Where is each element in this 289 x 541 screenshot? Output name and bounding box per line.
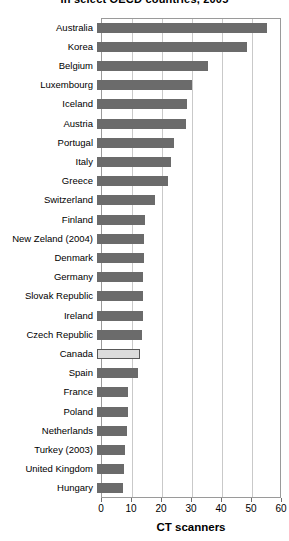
bar-cell — [97, 306, 289, 325]
category-label: Greece — [0, 176, 97, 186]
bar-row: Czech Republic — [0, 325, 289, 344]
bar — [97, 42, 247, 52]
bar-row: New Zeland (2004) — [0, 229, 289, 248]
tickmark-30 — [191, 498, 192, 502]
x-tick-label: 10 — [125, 503, 136, 515]
bar — [97, 157, 171, 167]
bar-row: Denmark — [0, 248, 289, 267]
x-tick-label: 0 — [98, 503, 104, 515]
category-label: Italy — [0, 157, 97, 167]
bar-row: Netherlands — [0, 421, 289, 440]
x-tick-label: 50 — [245, 503, 256, 515]
category-label: United Kingdom — [0, 464, 97, 474]
category-label: Netherlands — [0, 426, 97, 436]
bar-cell — [97, 76, 289, 95]
bar-row: United Kingdom — [0, 460, 289, 479]
bar-row: Ireland — [0, 306, 289, 325]
bar-cell — [97, 229, 289, 248]
ct-scanners-bar-chart: in select OECD countries, 2005 Australia… — [0, 0, 289, 541]
bar-cell — [97, 114, 289, 133]
bar-row: Germany — [0, 268, 289, 287]
tickmark-50 — [251, 498, 252, 502]
bar-cell — [97, 37, 289, 56]
x-tick-label: 30 — [185, 503, 196, 515]
bar-row: Korea — [0, 37, 289, 56]
plot-wrapper: AustraliaKoreaBelgiumLuxembourgIcelandAu… — [0, 0, 289, 541]
bar — [97, 445, 125, 455]
category-label: Finland — [0, 215, 97, 225]
bar — [97, 291, 143, 301]
x-tick-label: 40 — [215, 503, 226, 515]
category-label: Poland — [0, 407, 97, 417]
bar — [97, 426, 127, 436]
bar-row: Switzerland — [0, 191, 289, 210]
category-label: Hungary — [0, 483, 97, 493]
category-label: Portugal — [0, 138, 97, 148]
bar-row: Portugal — [0, 133, 289, 152]
bar-cell — [97, 56, 289, 75]
bar-cell — [97, 210, 289, 229]
bar-row: Belgium — [0, 56, 289, 75]
category-label: Korea — [0, 42, 97, 52]
bar-row: Turkey (2003) — [0, 440, 289, 459]
bar — [97, 61, 208, 71]
bar — [97, 119, 186, 129]
bar — [97, 330, 142, 340]
tickmark-0 — [101, 498, 102, 502]
bar — [97, 215, 145, 225]
bar — [97, 253, 144, 263]
bar — [97, 311, 143, 321]
bar — [97, 272, 143, 282]
category-label: Turkey (2003) — [0, 445, 97, 455]
bar-row: Poland — [0, 402, 289, 421]
bar-cell — [97, 364, 289, 383]
category-label: Slovak Republic — [0, 291, 97, 301]
category-label: France — [0, 387, 97, 397]
tickmark-10 — [131, 498, 132, 502]
bar-cell — [97, 421, 289, 440]
bar-rows: AustraliaKoreaBelgiumLuxembourgIcelandAu… — [0, 18, 289, 498]
bar-cell — [97, 344, 289, 363]
bar — [97, 176, 168, 186]
bar-cell — [97, 248, 289, 267]
category-label: Canada — [0, 349, 97, 359]
bar — [97, 99, 187, 109]
category-label: Ireland — [0, 311, 97, 321]
bar-cell — [97, 95, 289, 114]
bar — [97, 407, 128, 417]
category-label: Czech Republic — [0, 330, 97, 340]
bar — [97, 387, 128, 397]
bar-cell — [97, 18, 289, 37]
bar-row: France — [0, 383, 289, 402]
bar-cell — [97, 152, 289, 171]
bar-highlighted — [97, 349, 140, 359]
bar-cell — [97, 133, 289, 152]
category-label: Denmark — [0, 253, 97, 263]
bar-cell — [97, 268, 289, 287]
bar-row: Austria — [0, 114, 289, 133]
tickmark-40 — [221, 498, 222, 502]
bar-row: Italy — [0, 152, 289, 171]
bar-cell — [97, 287, 289, 306]
x-tick-label: 60 — [275, 503, 286, 515]
bar — [97, 80, 192, 90]
bar-cell — [97, 325, 289, 344]
bar — [97, 464, 124, 474]
bar-cell — [97, 460, 289, 479]
bar — [97, 368, 138, 378]
bar-cell — [97, 440, 289, 459]
bar-row: Luxembourg — [0, 76, 289, 95]
bar — [97, 483, 123, 493]
bar-row: Spain — [0, 364, 289, 383]
tickmark-60 — [281, 498, 282, 502]
bar — [97, 23, 267, 33]
tickmark-20 — [161, 498, 162, 502]
category-label: Germany — [0, 272, 97, 282]
bar-cell — [97, 383, 289, 402]
category-label: Iceland — [0, 99, 97, 109]
bar-row: Slovak Republic — [0, 287, 289, 306]
bar-cell — [97, 402, 289, 421]
bar — [97, 234, 144, 244]
bar-row: Finland — [0, 210, 289, 229]
bar-cell — [97, 479, 289, 498]
